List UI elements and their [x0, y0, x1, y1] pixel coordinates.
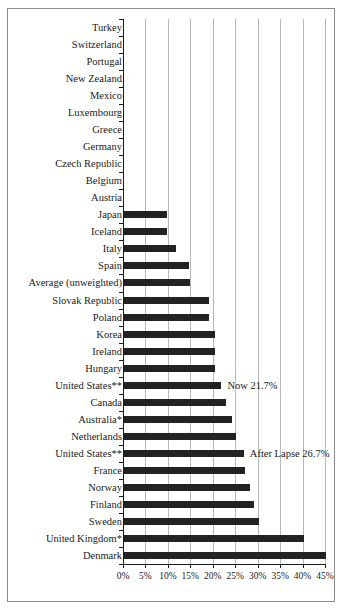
category-label: Korea — [96, 326, 122, 343]
bar — [124, 279, 190, 286]
gridline — [235, 19, 236, 564]
x-axis-tick — [258, 564, 259, 568]
x-axis-tick — [325, 564, 326, 568]
x-axis-tick — [145, 564, 146, 568]
category-tick — [119, 155, 123, 156]
category-tick — [119, 479, 123, 480]
category-tick — [119, 462, 123, 463]
category-tick — [119, 530, 123, 531]
x-axis-line — [123, 564, 325, 566]
category-axis-labels: TurkeySwitzerlandPortugalNew ZealandMexi… — [8, 19, 122, 564]
gridline — [303, 19, 304, 564]
category-label: Mexico — [90, 87, 122, 104]
bar — [124, 433, 236, 440]
x-axis-tick-label: 30% — [249, 569, 266, 583]
category-label: Czech Republic — [55, 155, 122, 172]
category-tick — [119, 70, 123, 71]
bar — [124, 297, 209, 304]
x-axis-tick — [235, 564, 236, 568]
gridline — [280, 19, 281, 564]
category-label: Switzerland — [72, 36, 122, 53]
category-tick — [119, 496, 123, 497]
bar-value-annotation: Now 21.7% — [227, 380, 277, 391]
category-label: Belgium — [86, 172, 122, 189]
bar — [124, 552, 326, 559]
category-label: Japan — [98, 206, 122, 223]
gridline — [168, 19, 169, 564]
category-label: Turkey — [92, 19, 122, 36]
x-axis-zero-line — [123, 19, 124, 564]
category-label: Norway — [88, 479, 122, 496]
bar — [124, 262, 189, 269]
category-label: Australia* — [78, 411, 122, 428]
category-tick — [119, 445, 123, 446]
category-label: France — [93, 462, 122, 479]
bar — [124, 382, 221, 389]
x-axis-tick — [213, 564, 214, 568]
category-label: Hungary — [85, 360, 122, 377]
category-label: Ireland — [92, 343, 122, 360]
category-label: United States** — [55, 377, 122, 394]
category-label: Luxembourg — [68, 104, 122, 121]
category-label: United Kingdom* — [46, 530, 122, 547]
category-label: Austria — [91, 189, 122, 206]
category-label: Poland — [93, 309, 122, 326]
category-tick — [119, 206, 123, 207]
category-tick — [119, 428, 123, 429]
bar — [124, 348, 215, 355]
category-label: Portugal — [86, 53, 122, 70]
bar — [124, 450, 244, 457]
category-label: United States** — [55, 445, 122, 462]
gridline — [213, 19, 214, 564]
category-label: Greece — [92, 121, 122, 138]
category-tick — [119, 223, 123, 224]
x-axis-tick-label: 45% — [316, 569, 333, 583]
category-tick — [119, 121, 123, 122]
category-label: Denmark — [83, 547, 122, 564]
gridline — [325, 19, 326, 564]
category-tick — [119, 326, 123, 327]
category-tick — [119, 292, 123, 293]
category-label: Iceland — [91, 223, 122, 240]
x-axis-tick-label: 5% — [139, 569, 152, 583]
gridline — [145, 19, 146, 564]
category-tick — [119, 87, 123, 88]
category-label: Italy — [103, 240, 122, 257]
bar — [124, 245, 176, 252]
gridline — [258, 19, 259, 564]
category-tick — [119, 138, 123, 139]
x-axis-baseline — [123, 564, 325, 565]
x-axis-tick-label: 10% — [159, 569, 176, 583]
bar-value-annotation: After Lapse 26.7% — [250, 448, 330, 459]
category-label: New Zealand — [66, 70, 122, 87]
bar — [124, 331, 215, 338]
bar — [124, 501, 254, 508]
category-tick — [119, 172, 123, 173]
category-label: Canada — [91, 394, 123, 411]
category-label: Sweden — [89, 513, 122, 530]
gridline — [190, 19, 191, 564]
category-tick — [119, 53, 123, 54]
x-axis-tick-labels: 0%5%10%15%20%25%30%35%40%45% — [123, 569, 333, 585]
bar — [124, 314, 209, 321]
category-tick — [119, 189, 123, 190]
bar — [124, 399, 226, 406]
category-tick — [119, 274, 123, 275]
x-axis-tick-label: 0% — [117, 569, 130, 583]
category-tick — [119, 513, 123, 514]
category-tick — [119, 257, 123, 258]
category-tick — [119, 309, 123, 310]
bar — [124, 484, 250, 491]
x-axis-tick — [123, 564, 124, 568]
category-tick — [119, 360, 123, 361]
category-tick — [119, 394, 123, 395]
x-axis-tick-label: 15% — [182, 569, 199, 583]
category-label: Average (unweighted) — [29, 274, 122, 291]
category-tick — [119, 377, 123, 378]
x-axis-tick — [280, 564, 281, 568]
category-label: Netherlands — [71, 428, 122, 445]
plot-area: Now 21.7%After Lapse 26.7% — [123, 19, 325, 564]
bar — [124, 365, 215, 372]
category-label: Finland — [90, 496, 122, 513]
bar — [124, 211, 167, 218]
